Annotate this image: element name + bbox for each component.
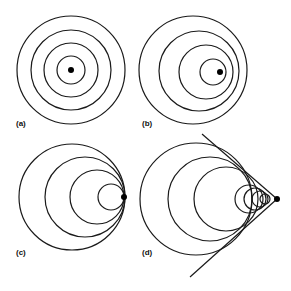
source-dot bbox=[68, 67, 74, 73]
wavefront-circle bbox=[70, 170, 124, 224]
panel-label-b: (b) bbox=[142, 119, 152, 128]
wavefront-circle bbox=[19, 144, 125, 250]
mach-cone-line bbox=[190, 199, 277, 277]
source-dot bbox=[274, 196, 280, 202]
panel-c bbox=[19, 144, 127, 250]
wavefront-circle bbox=[139, 16, 247, 124]
source-dot bbox=[121, 194, 127, 200]
panel-a bbox=[17, 16, 125, 124]
panel-label-c: (c) bbox=[16, 248, 26, 257]
panel-d bbox=[140, 134, 280, 277]
wavefront-circle bbox=[45, 157, 125, 237]
wavefront-circle bbox=[194, 167, 258, 231]
panel-b bbox=[139, 16, 247, 124]
source-dot bbox=[217, 69, 223, 75]
panel-label-a: (a) bbox=[16, 119, 26, 128]
wavefront-circle bbox=[98, 184, 124, 210]
panel-label-d: (d) bbox=[142, 248, 152, 257]
wavefront-circle bbox=[179, 45, 233, 99]
wavefront-circle bbox=[159, 31, 239, 111]
